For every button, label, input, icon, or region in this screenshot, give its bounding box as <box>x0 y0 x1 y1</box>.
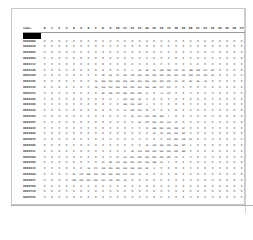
table-cell: 0 <box>209 195 216 201</box>
table-cell: 0 <box>99 195 106 201</box>
table-cell: 0 <box>158 195 165 201</box>
table-cell: 0 <box>107 195 114 201</box>
table-cell: 0 <box>231 195 238 201</box>
pixel-value-table: index 0123456789101112131415161718192021… <box>23 26 245 201</box>
table-cell: 0 <box>85 195 92 201</box>
table-cell: 0 <box>238 195 245 201</box>
table-cell: 0 <box>136 195 143 201</box>
table-cell: 0 <box>41 195 48 201</box>
table-cell: 0 <box>129 195 136 201</box>
table-cell: 0 <box>56 195 63 201</box>
table-row: 00007560000000000000000000000000000 <box>23 195 245 201</box>
table-cell: 0 <box>92 195 99 201</box>
table-cell: 0 <box>77 195 84 201</box>
table-cell: 0 <box>63 195 70 201</box>
table-cell: 0 <box>180 195 187 201</box>
page-bottom-edge <box>11 205 253 206</box>
table-cell: 0 <box>114 195 121 201</box>
table-cell: 0 <box>48 195 55 201</box>
table-cell: 0 <box>216 195 223 201</box>
table-cell: 0 <box>194 195 201 201</box>
table-cell: 0 <box>165 195 172 201</box>
table-cell: 0 <box>202 195 209 201</box>
table-cell: 0 <box>187 195 194 201</box>
table-cell: 0 <box>223 195 230 201</box>
table-cell: 0 <box>121 195 128 201</box>
table-cell: 0 <box>70 195 77 201</box>
table-cell: 0 <box>172 195 179 201</box>
table-cell: 0 <box>143 195 150 201</box>
table-cell: 0 <box>150 195 157 201</box>
row-label: 0000756 <box>23 195 41 201</box>
